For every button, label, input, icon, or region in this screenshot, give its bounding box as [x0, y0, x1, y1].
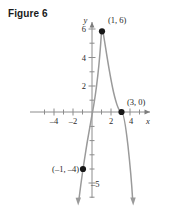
- y-axis: [89, 22, 96, 198]
- x-intercept-label: (3, 0): [127, 97, 146, 107]
- y-tick-label-pos6: 6: [82, 24, 86, 34]
- lower-left-point-label: (–1, –4): [52, 164, 79, 174]
- x-intercept-point: [118, 109, 124, 115]
- y-axis-label: y: [83, 15, 88, 25]
- x-axis-arrow-icon: [145, 110, 151, 115]
- parabola-path: [79, 31, 133, 199]
- x-axis-label: x: [145, 116, 150, 126]
- x-tick-label-pos2: 2: [109, 116, 113, 126]
- x-tick-label-pos4: 4: [129, 116, 134, 126]
- right-branch-arrow-icon: [130, 198, 135, 206]
- x-tick-label-neg2: –2: [68, 116, 78, 126]
- y-axis-arrow-icon: [90, 22, 95, 28]
- left-branch-arrow-icon: [76, 197, 81, 205]
- y-tick-label-pos4: 4: [82, 53, 87, 63]
- y-tick-label-neg5: –5: [90, 179, 100, 189]
- vertex-label: (1, 6): [108, 15, 127, 25]
- x-tick-label-neg4: –4: [49, 116, 59, 126]
- x-axis: [30, 109, 150, 116]
- figure-container: Figure 6: [0, 0, 177, 209]
- lower-left-point: [80, 166, 86, 172]
- vertex-point: [99, 28, 105, 34]
- y-tick-label-pos2: 2: [82, 81, 86, 91]
- coordinate-plot: –4 –2 2 4 6 4 2 –5 y x (1, 6) (3, 0) (–1…: [0, 0, 177, 209]
